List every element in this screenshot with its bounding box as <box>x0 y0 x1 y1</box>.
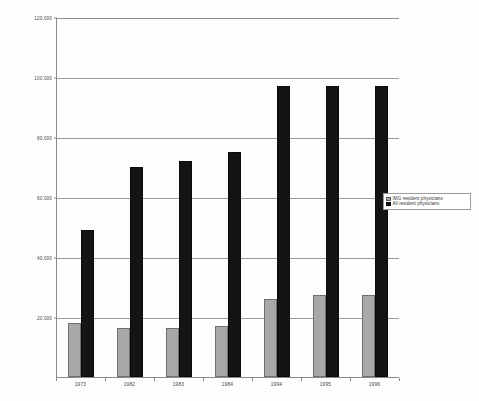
y-axis-tick-label: 60,000 <box>37 196 52 201</box>
x-axis-tick-label-1982: 1982 <box>105 378 154 387</box>
x-axis-tick-label-1996: 1996 <box>350 378 399 387</box>
bar-all-1973 <box>81 230 94 377</box>
bar-img-1982 <box>117 328 130 378</box>
x-axis-tick-label-1983: 1983 <box>154 378 203 387</box>
x-tick-mark <box>350 378 351 381</box>
x-tick-mark <box>399 378 400 381</box>
bar-group-1995 <box>301 18 350 377</box>
x-axis-tick-label-1994: 1994 <box>252 378 301 387</box>
bar-img-1996 <box>362 295 375 378</box>
x-axis-tick-labels: 1973198219831984199419951996 <box>56 378 399 392</box>
y-axis-tick-label: 40,000 <box>37 256 52 261</box>
y-axis-tick-label: 80,000 <box>37 136 52 141</box>
bars-layer <box>57 18 399 377</box>
bar-chart-figure: 120,000100,00080,00060,00040,00020,000 1… <box>0 0 479 401</box>
y-axis-tick-label: 120,000 <box>34 16 52 21</box>
y-axis-tick-label: 100,000 <box>34 76 52 81</box>
x-tick-mark <box>252 378 253 381</box>
bar-all-1994 <box>277 86 290 377</box>
bar-img-1973 <box>68 323 81 377</box>
x-tick-mark <box>105 378 106 381</box>
x-axis-tick-label-1973: 1973 <box>56 378 105 387</box>
bar-all-1996 <box>375 86 388 377</box>
bar-img-1983 <box>166 328 179 378</box>
legend-label: All resident physicians <box>393 202 440 207</box>
x-tick-mark <box>154 378 155 381</box>
bar-img-1995 <box>313 295 326 378</box>
x-axis-tick-label-1984: 1984 <box>203 378 252 387</box>
x-tick-mark <box>56 378 57 381</box>
bar-group-1994 <box>252 18 301 377</box>
bar-group-1982 <box>106 18 155 377</box>
bar-group-1973 <box>57 18 106 377</box>
y-axis-tick-label: 20,000 <box>37 316 52 321</box>
bar-group-1984 <box>204 18 253 377</box>
bar-all-1984 <box>228 152 241 377</box>
bar-all-1983 <box>179 161 192 377</box>
x-tick-mark <box>301 378 302 381</box>
bar-all-1982 <box>130 167 143 377</box>
bar-group-1983 <box>155 18 204 377</box>
chart-legend: IMG resident physiciansAll resident phys… <box>383 193 471 210</box>
legend-swatch-icon <box>386 197 391 202</box>
plot-area: 120,000100,00080,00060,00040,00020,000 <box>56 18 399 378</box>
bar-all-1995 <box>326 86 339 377</box>
legend-item-all[interactable]: All resident physicians <box>386 202 468 207</box>
bar-img-1984 <box>215 326 228 377</box>
x-axis-tick-label-1995: 1995 <box>301 378 350 387</box>
legend-swatch-icon <box>386 202 391 207</box>
x-tick-mark <box>203 378 204 381</box>
bar-img-1994 <box>264 299 277 377</box>
